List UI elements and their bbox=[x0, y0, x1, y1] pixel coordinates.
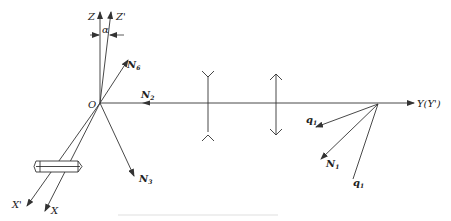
faint-caption bbox=[118, 214, 278, 216]
crystal-prism bbox=[34, 161, 82, 172]
x-axis: X bbox=[45, 103, 100, 216]
alpha-label: α bbox=[102, 24, 109, 35]
optical-diagram: Z Z' α N6 O Y(Y') N2 q1 bbox=[0, 0, 451, 221]
alpha-angle-annotation: α bbox=[90, 24, 124, 35]
n1-label: N1 bbox=[325, 158, 339, 170]
z-axis: Z bbox=[87, 11, 100, 103]
vector-n6: N6 bbox=[100, 59, 141, 103]
q1-upper-label: q1 bbox=[306, 114, 317, 126]
z-prime-axis-label: Z' bbox=[115, 11, 126, 22]
origin-label: O bbox=[88, 99, 96, 110]
q1-lower-label: q1 bbox=[353, 177, 364, 189]
n2-label: N2 bbox=[140, 89, 154, 101]
vector-q1-lower: q1 bbox=[353, 104, 378, 189]
n6-label: N6 bbox=[126, 59, 141, 71]
x-prime-axis: X' bbox=[11, 103, 100, 210]
z-axis-label: Z bbox=[87, 11, 96, 22]
n3-label: N3 bbox=[138, 173, 152, 185]
diverging-lens bbox=[202, 71, 214, 141]
vector-q1-upper: q1 bbox=[306, 104, 378, 127]
x-prime-axis-label: X' bbox=[11, 199, 22, 210]
y-axis-label: Y(Y') bbox=[417, 98, 441, 109]
x-axis-label: X bbox=[50, 205, 59, 216]
vector-n1: N1 bbox=[321, 104, 378, 170]
converging-lens bbox=[270, 74, 282, 135]
vector-n3: N3 bbox=[100, 103, 152, 185]
